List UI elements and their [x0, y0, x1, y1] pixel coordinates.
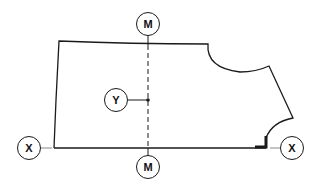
- label-x-right: X: [281, 137, 304, 160]
- label-x-left: X: [18, 137, 41, 160]
- svg-text:X: X: [25, 142, 33, 154]
- label-m-top: M: [137, 13, 160, 36]
- right-angle-mark: [255, 136, 266, 147]
- point-y-dot: [146, 98, 150, 102]
- svg-text:X: X: [288, 142, 296, 154]
- label-y: Y: [105, 89, 128, 112]
- pattern-diagram: M M Y X X: [0, 0, 316, 194]
- label-m-bottom: M: [137, 156, 160, 179]
- svg-text:M: M: [143, 18, 152, 30]
- svg-text:Y: Y: [112, 94, 120, 106]
- pattern-outline: [54, 41, 293, 148]
- svg-text:M: M: [143, 161, 152, 173]
